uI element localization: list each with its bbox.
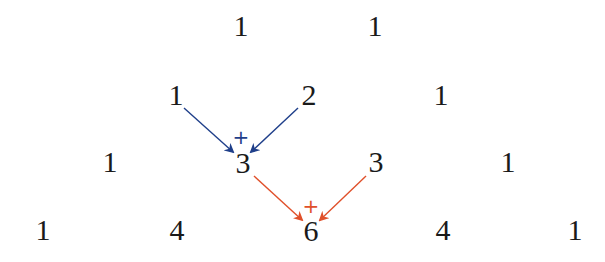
row3-value-0: 1 bbox=[36, 215, 51, 245]
row0-value-1: 1 bbox=[368, 11, 383, 41]
row2-value-1: 3 bbox=[236, 148, 251, 178]
row3-value-3: 4 bbox=[436, 215, 451, 245]
row3-value-4: 1 bbox=[568, 215, 583, 245]
row0-value-0: 1 bbox=[234, 11, 249, 41]
orange-plus-icon: + bbox=[303, 196, 320, 216]
row2-value-0: 1 bbox=[103, 147, 118, 177]
blue-arrow-left bbox=[184, 108, 233, 152]
orange-arrow-left bbox=[254, 176, 302, 220]
arrows-layer bbox=[0, 0, 605, 262]
row1-value-2: 1 bbox=[434, 80, 449, 110]
blue-arrow-right bbox=[251, 108, 298, 152]
pascal-triangle-diagram: 1 1 1 2 1 1 3 3 1 1 4 6 4 1 + + bbox=[0, 0, 605, 262]
blue-plus-icon: + bbox=[233, 127, 250, 147]
row3-value-2: 6 bbox=[304, 216, 319, 246]
row2-value-2: 3 bbox=[369, 147, 384, 177]
row2-value-3: 1 bbox=[501, 147, 516, 177]
row3-value-1: 4 bbox=[170, 215, 185, 245]
row1-value-1: 2 bbox=[302, 80, 317, 110]
orange-arrow-right bbox=[320, 176, 366, 220]
row1-value-0: 1 bbox=[169, 80, 184, 110]
